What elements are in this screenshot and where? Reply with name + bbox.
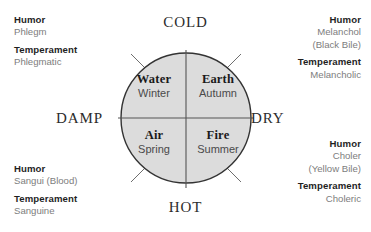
annotation-phlegm-humor-label: Humor [14, 14, 77, 26]
annotation-sangui-humor-label: Humor [14, 163, 77, 175]
annotation-choler: Humor Choler (Yellow Bile) Temperament C… [298, 138, 361, 205]
annotation-melanchol: Humor Melanchol (Black Bile) Temperament… [298, 14, 361, 81]
quadrant-water-season: Winter [122, 86, 186, 100]
quadrant-fire-season: Summer [186, 142, 250, 156]
quadrant-fire: Fire Summer [186, 128, 250, 156]
annotation-melanchol-humor-label: Humor [298, 14, 361, 26]
annotation-phlegm-temperament-label: Temperament [14, 44, 77, 56]
quadrant-air-element: Air [122, 128, 186, 142]
humors-diagram: COLD HOT DAMP DRY Water Winter Earth Aut… [0, 0, 371, 232]
annotation-sangui-temperament-label: Temperament [14, 193, 77, 205]
annotation-phlegm-temperament-value: Phlegmatic [14, 56, 77, 68]
quadrant-air-season: Spring [122, 142, 186, 156]
annotation-melanchol-humor-value: Melanchol [298, 26, 361, 38]
annotation-melanchol-temperament-value: Melancholic [298, 69, 361, 81]
annotation-choler-temperament-value: Choleric [298, 193, 361, 205]
annotation-sangui-humor-value: Sangui (Blood) [14, 175, 77, 187]
annotation-sangui: Humor Sangui (Blood) Temperament Sanguin… [14, 163, 77, 218]
annotation-choler-humor-label: Humor [298, 138, 361, 150]
axis-label-damp: DAMP [56, 110, 103, 127]
annotation-sangui-temperament-value: Sanguine [14, 205, 77, 217]
annotation-phlegm-humor-value: Phlegm [14, 26, 77, 38]
axis-label-dry: DRY [251, 110, 285, 127]
annotation-phlegm: Humor Phlegm Temperament Phlegmatic [14, 14, 77, 69]
quadrant-water-element: Water [122, 72, 186, 86]
quadrant-earth: Earth Autumn [186, 72, 250, 100]
annotation-melanchol-humor-value-extra: (Black Bile) [298, 39, 361, 51]
annotation-melanchol-temperament-label: Temperament [298, 56, 361, 68]
quadrant-water: Water Winter [122, 72, 186, 100]
annotation-choler-temperament-label: Temperament [298, 180, 361, 192]
quadrant-air: Air Spring [122, 128, 186, 156]
annotation-choler-humor-value-extra: (Yellow Bile) [298, 163, 361, 175]
annotation-choler-humor-value: Choler [298, 150, 361, 162]
quadrant-earth-season: Autumn [186, 86, 250, 100]
quadrant-fire-element: Fire [186, 128, 250, 142]
quadrant-earth-element: Earth [186, 72, 250, 86]
